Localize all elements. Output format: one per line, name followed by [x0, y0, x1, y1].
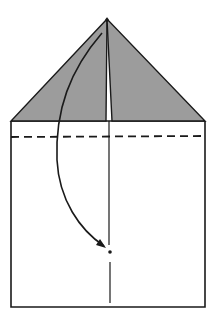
paper-outline	[11, 121, 205, 307]
right-flap	[107, 19, 205, 121]
dashed-fold-line	[11, 136, 205, 137]
left-flap	[11, 19, 107, 121]
target-point	[108, 250, 112, 254]
fold-diagram	[0, 0, 217, 320]
apex-point	[105, 18, 109, 22]
